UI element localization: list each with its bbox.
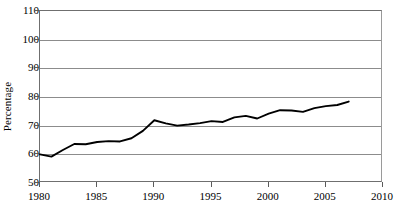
series-layer: [40, 11, 383, 183]
x-tick-mark-1985: [96, 182, 97, 187]
x-tick-mark-2000: [268, 182, 269, 187]
x-tick-mark-1980: [39, 182, 40, 187]
x-tick-mark-2010: [382, 182, 383, 187]
x-tick-label-1980: 1980: [14, 191, 64, 202]
x-tick-label-2005: 2005: [300, 191, 350, 202]
x-tick-label-1985: 1985: [71, 191, 121, 202]
x-tick-mark-2005: [325, 182, 326, 187]
series-line-percentage: [40, 102, 349, 157]
x-tick-mark-1990: [153, 182, 154, 187]
x-tick-label-1990: 1990: [128, 191, 178, 202]
plot-area: [39, 10, 382, 182]
line-chart: Percentage 5060708090100110 198019851990…: [0, 0, 412, 213]
x-axis: 1980198519901995200020052010: [0, 182, 412, 213]
x-tick-label-1995: 1995: [186, 191, 236, 202]
x-tick-mark-1995: [211, 182, 212, 187]
x-tick-label-2000: 2000: [243, 191, 293, 202]
x-tick-label-2010: 2010: [357, 191, 407, 202]
